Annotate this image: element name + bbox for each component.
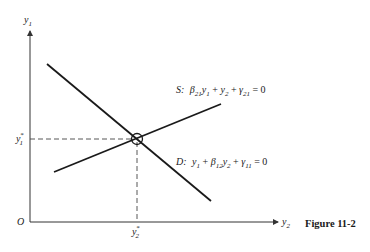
demand-equation: D: y1 + β12y2 + γ11 = 0 (175, 156, 267, 170)
supply-equation: S: β21y1 + y2 + γ21 = 0 (176, 84, 266, 98)
supply-demand-diagram: y1 y2 O y*1 y*2 S: β21y1 + y2 + γ21 = 0 … (0, 0, 370, 252)
y2-star-label: y*2 (131, 224, 140, 240)
origin-label: O (17, 216, 24, 227)
y-axis-label: y1 (23, 14, 32, 28)
y1-star-label: y*1 (15, 131, 24, 147)
figure-caption: Figure 11-2 (305, 218, 356, 229)
x-axis-label: y2 (281, 216, 290, 230)
